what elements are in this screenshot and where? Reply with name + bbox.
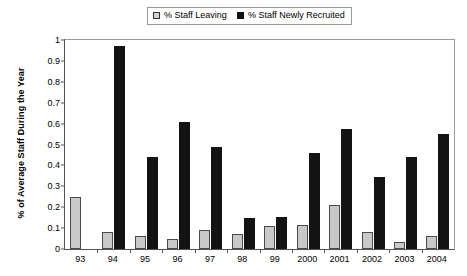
bar-group <box>162 40 194 249</box>
chart-legend: % Staff Leaving % Staff Newly Recruited <box>147 7 352 25</box>
x-tick-mark <box>292 249 293 253</box>
bar-recruited <box>276 217 287 249</box>
bar-leaving <box>199 230 210 249</box>
x-axis-label: 95 <box>129 254 161 264</box>
bar-group <box>422 40 454 249</box>
bar-groups <box>65 40 454 249</box>
plot-area: 00.10.20.30.40.50.60.70.80.91 <box>64 39 455 250</box>
x-tick-mark <box>162 249 163 253</box>
x-axis-label: 97 <box>194 254 226 264</box>
x-tick-mark <box>260 249 261 253</box>
bar-recruited <box>179 122 190 249</box>
bar-group <box>260 40 292 249</box>
legend-swatch-staff-leaving <box>153 12 160 19</box>
legend-label-staff-leaving: % Staff Leaving <box>164 10 227 21</box>
x-tick-mark <box>324 249 325 253</box>
x-tick-mark <box>195 249 196 253</box>
x-axis-label: 96 <box>161 254 193 264</box>
bar-recruited <box>309 153 320 249</box>
x-axis-label: 93 <box>64 254 96 264</box>
bar-leaving <box>135 236 146 249</box>
bar-group <box>65 40 97 249</box>
bar-recruited <box>438 134 449 249</box>
bar-group <box>324 40 356 249</box>
legend-swatch-staff-newly-recruited <box>237 12 244 19</box>
bar-group <box>357 40 389 249</box>
bar-recruited <box>244 218 255 249</box>
bar-recruited <box>147 157 158 249</box>
bar-leaving <box>362 232 373 249</box>
bar-leaving <box>167 239 178 249</box>
y-axis-title: % of Average Staff During the Year <box>16 38 26 248</box>
bar-leaving <box>394 242 405 249</box>
bar-leaving <box>232 234 243 249</box>
bar-group <box>130 40 162 249</box>
legend-label-staff-newly-recruited: % Staff Newly Recruited <box>248 10 345 21</box>
x-axis-label: 2002 <box>356 254 388 264</box>
bar-leaving <box>426 236 437 249</box>
x-tick-mark <box>227 249 228 253</box>
legend-entry-staff-newly-recruited: % Staff Newly Recruited <box>237 10 345 21</box>
bar-leaving <box>329 205 340 249</box>
bar-recruited <box>211 147 222 249</box>
x-tick-mark <box>389 249 390 253</box>
bar-group <box>227 40 259 249</box>
bar-chart: % Staff Leaving % Staff Newly Recruited … <box>0 0 467 276</box>
bar-leaving <box>264 226 275 249</box>
bar-recruited <box>406 157 417 249</box>
x-tick-mark <box>357 249 358 253</box>
x-tick-mark <box>130 249 131 253</box>
bar-group <box>195 40 227 249</box>
x-axis-label: 2001 <box>323 254 355 264</box>
x-tick-mark <box>422 249 423 253</box>
x-axis-label: 2000 <box>291 254 323 264</box>
bar-leaving <box>70 197 81 249</box>
bar-group <box>292 40 324 249</box>
x-axis-label: 94 <box>96 254 128 264</box>
bar-recruited <box>374 177 385 249</box>
x-axis-label: 99 <box>259 254 291 264</box>
x-tick-mark <box>97 249 98 253</box>
legend-entry-staff-leaving: % Staff Leaving <box>153 10 227 21</box>
bar-recruited <box>114 46 125 249</box>
x-axis-label: 2003 <box>388 254 420 264</box>
bar-leaving <box>297 225 308 249</box>
x-axis-label: 98 <box>226 254 258 264</box>
bar-group <box>97 40 129 249</box>
x-axis-label: 2004 <box>421 254 453 264</box>
bar-leaving <box>102 232 113 249</box>
bar-group <box>389 40 421 249</box>
x-axis-labels: 9394959697989920002001200220032004 <box>64 254 453 264</box>
bar-recruited <box>341 129 352 249</box>
